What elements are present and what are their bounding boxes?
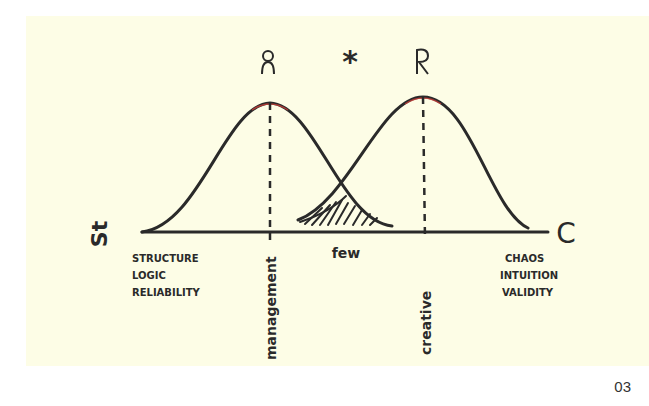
curve-label-management: management [263, 256, 279, 360]
star-symbol: * [342, 44, 358, 79]
person-icon [262, 51, 274, 74]
curve-label-creative: creative [418, 291, 434, 355]
bell-curve-diagram: * St C STRUCTURE LOGIC RELIABILITY CHAOS… [0, 0, 649, 406]
overlap-hatching [300, 196, 377, 225]
page-number: 03 [614, 378, 631, 395]
axis-left-symbol: St [87, 220, 112, 247]
label-chaos: CHAOS [505, 253, 544, 264]
person-icon [417, 50, 428, 74]
label-reliability: RELIABILITY [132, 287, 201, 298]
label-logic: LOGIC [132, 270, 166, 281]
label-validity: VALIDITY [502, 287, 554, 298]
overlap-label-few: few [332, 245, 361, 261]
label-intuition: INTUITION [500, 270, 558, 281]
axis-right-symbol: C [556, 217, 576, 250]
creative-dashed-line [423, 97, 425, 240]
management-bell-curve [142, 103, 392, 232]
label-structure: STRUCTURE [132, 253, 199, 264]
